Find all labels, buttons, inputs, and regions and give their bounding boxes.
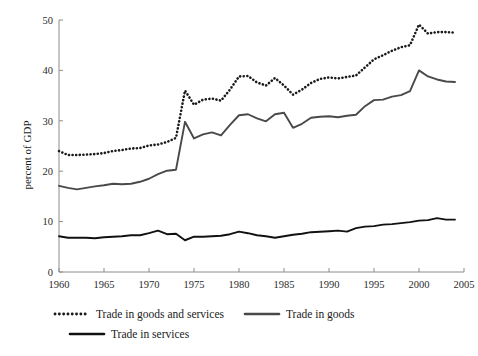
x-tick-label: 2005 — [454, 279, 475, 290]
x-axis-tick-marks — [59, 268, 464, 272]
y-tick-label: 30 — [43, 116, 54, 127]
legend-label: Trade in goods — [286, 308, 355, 321]
x-tick-label: 1970 — [139, 279, 160, 290]
line-chart: percent of GDP 01020304050 1960196519701… — [0, 0, 478, 356]
chart-figure: percent of GDP 01020304050 1960196519701… — [0, 0, 478, 356]
y-tick-label: 10 — [43, 216, 54, 227]
y-axis-tick-marks — [59, 20, 63, 272]
legend-label: Trade in services — [111, 328, 190, 340]
x-tick-label: 2000 — [409, 279, 430, 290]
y-tick-label: 40 — [43, 65, 54, 76]
y-axis-title-group: percent of GDP — [21, 120, 33, 189]
x-tick-label: 1980 — [229, 279, 250, 290]
x-tick-label: 1965 — [94, 279, 115, 290]
x-tick-label: 1990 — [319, 279, 340, 290]
y-tick-label: 20 — [43, 166, 54, 177]
x-tick-label: 1975 — [184, 279, 205, 290]
y-axis-title: percent of GDP — [21, 120, 33, 189]
x-tick-label: 1995 — [364, 279, 385, 290]
series-line — [59, 70, 455, 189]
x-tick-label: 1985 — [274, 279, 295, 290]
series-line — [59, 25, 455, 156]
x-tick-label: 1960 — [49, 279, 70, 290]
series-line — [59, 218, 455, 240]
legend-label: Trade in goods and services — [96, 308, 224, 321]
chart-legend: Trade in goods and servicesTrade in good… — [55, 308, 355, 340]
x-axis-tick-labels: 1960196519701975198019851990199520002005 — [49, 279, 475, 290]
series-lines — [59, 25, 455, 241]
y-axis-tick-labels: 01020304050 — [43, 15, 54, 278]
y-tick-label: 0 — [48, 267, 53, 278]
y-tick-label: 50 — [43, 15, 54, 26]
